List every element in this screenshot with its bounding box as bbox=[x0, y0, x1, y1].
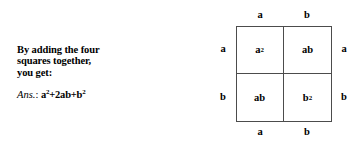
cell-top-right-base: ab bbox=[302, 44, 313, 55]
cell-top-left: a2 bbox=[236, 26, 283, 73]
label-left-top-a: a bbox=[216, 43, 230, 54]
label-bottom-left-a: a bbox=[253, 126, 267, 137]
label-left-bottom-b: b bbox=[216, 91, 230, 102]
answer-label: Ans. bbox=[17, 89, 35, 100]
label-top-left-a: a bbox=[253, 9, 267, 20]
label-bottom-right-b: b bbox=[300, 126, 314, 137]
instruction-text-block: By adding the four squares together, you… bbox=[17, 44, 152, 101]
label-top-right-b: b bbox=[300, 9, 314, 20]
answer-line: Ans.: a2+2ab+b2 bbox=[17, 89, 152, 101]
instruction-line-2: squares together, bbox=[17, 55, 152, 66]
answer-expression: a2+2ab+b2 bbox=[41, 89, 86, 100]
instruction-line-1: By adding the four bbox=[17, 44, 152, 55]
label-right-bottom-b: b bbox=[337, 91, 351, 102]
label-right-top-a: a bbox=[337, 43, 351, 54]
cell-bottom-right: b2 bbox=[284, 74, 331, 121]
answer-colon: : bbox=[35, 89, 38, 100]
answer-term-2: +2ab+ bbox=[49, 89, 76, 100]
page-root: By adding the four squares together, you… bbox=[0, 0, 358, 149]
instruction-line-3: you get: bbox=[17, 67, 152, 78]
area-model-diagram: a2 ab ab b2 a b a b a b a b bbox=[236, 26, 332, 122]
cell-bottom-left-base: ab bbox=[254, 92, 265, 103]
cell-bottom-left: ab bbox=[236, 74, 283, 121]
cell-bottom-right-base: b bbox=[303, 92, 309, 103]
answer-term-3-exponent: 2 bbox=[82, 88, 85, 95]
cell-top-right: ab bbox=[284, 26, 331, 73]
